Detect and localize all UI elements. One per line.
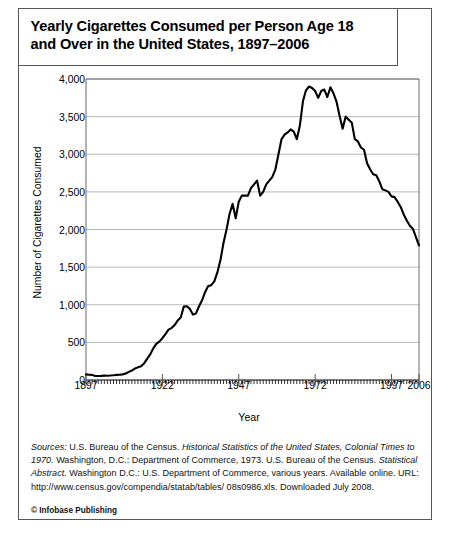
source-text-2: Washington, D.C.: Department of Commerce… <box>54 455 379 465</box>
chart-title-box: Yearly Cigarettes Consumed per Person Ag… <box>18 8 398 66</box>
figure-container: Yearly Cigarettes Consumed per Person Ag… <box>18 8 432 520</box>
gridlines <box>86 79 419 380</box>
source-label: Sources: <box>31 442 67 452</box>
source-text-1: U.S. Bureau of the Census. <box>67 442 182 452</box>
source-text-3: Washington D.C.: U.S. Department of Comm… <box>31 468 419 491</box>
copyright-notice: © Infobase Publishing <box>31 506 117 515</box>
data-series-line <box>86 87 419 376</box>
page-title: Yearly Cigarettes Consumed per Person Ag… <box>31 17 397 54</box>
plot-area-wrapper: Number of Cigarettes Consumed 05001,0001… <box>19 67 430 437</box>
source-note: Sources: U.S. Bureau of the Census. Hist… <box>31 441 423 494</box>
line-chart-plot <box>19 67 430 397</box>
x-axis-label: Year <box>79 411 419 423</box>
